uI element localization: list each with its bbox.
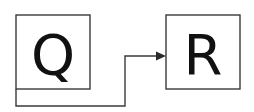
node-r: R [166, 15, 240, 89]
node-q: Q [16, 15, 90, 89]
node-r-label: R [184, 22, 223, 87]
node-q-label: Q [31, 22, 75, 87]
diagram-canvas: Q R [0, 0, 254, 112]
arrowhead-icon [156, 52, 166, 61]
